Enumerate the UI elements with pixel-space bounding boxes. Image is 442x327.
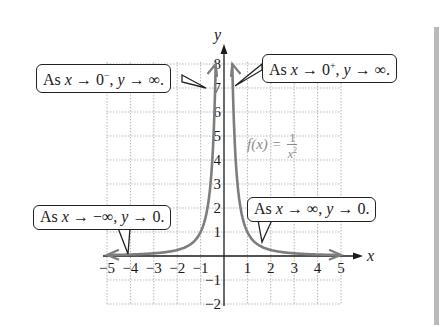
plot-area: xy−5−4−3−2−112345−2−112345678 xyxy=(0,0,442,327)
y-tick-label: 3 xyxy=(214,176,222,192)
x-tick-label: −2 xyxy=(169,260,185,276)
callout-right-approach-infinity: As x → ∞, y → 0. xyxy=(247,197,376,222)
y-axis-arrow-icon xyxy=(221,44,228,54)
function-label: f(x) = 1 x2 xyxy=(247,132,297,160)
x-axis-arrow-icon xyxy=(353,253,363,260)
x-tick-label: −5 xyxy=(99,260,115,276)
callout-left-approach-zero: As x → 0−, y → ∞. xyxy=(36,64,171,93)
x-tick-label: 4 xyxy=(314,260,322,276)
x-tick-label: 5 xyxy=(337,260,345,276)
graph-figure: xy−5−4−3−2−112345−2−112345678 As x → 0−,… xyxy=(0,0,442,327)
y-tick-label: −2 xyxy=(205,296,221,312)
y-tick-label: 4 xyxy=(214,152,222,168)
side-scroll-bar xyxy=(434,27,439,325)
callout-pointer-left-top xyxy=(182,75,206,88)
callout-pointer-right-bottom xyxy=(258,220,272,242)
callout-right-approach-zero: As x → 0+, y → ∞. xyxy=(262,54,397,83)
y-tick-label: −1 xyxy=(205,272,221,288)
y-tick-label: 1 xyxy=(214,224,222,240)
callout-pointer-left-bottom xyxy=(118,228,130,254)
x-tick-label: −4 xyxy=(122,260,138,276)
callout-left-approach-neg-infinity: As x → −∞, y → 0. xyxy=(33,205,171,230)
y-axis-label: y xyxy=(212,26,222,44)
callout-pointer-right-top xyxy=(235,64,262,86)
x-tick-label: 3 xyxy=(290,260,298,276)
x-tick-label: 2 xyxy=(267,260,275,276)
y-tick-label: 2 xyxy=(214,200,222,216)
x-tick-label: 1 xyxy=(244,260,252,276)
x-tick-label: −3 xyxy=(146,260,162,276)
x-axis-label: x xyxy=(366,247,374,264)
